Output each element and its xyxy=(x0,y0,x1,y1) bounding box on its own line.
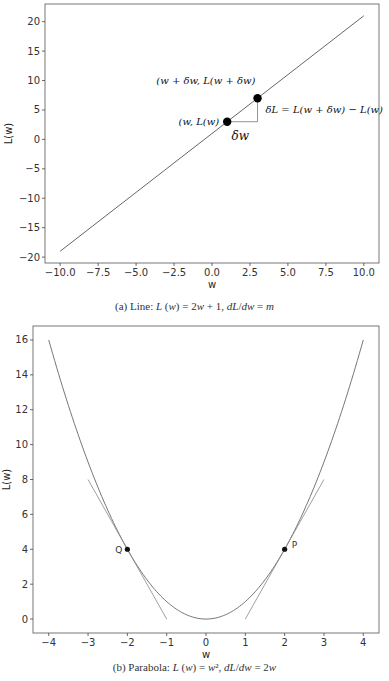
x-tick-label: −2.5 xyxy=(162,267,186,278)
x-tick-label: −7.5 xyxy=(86,267,110,278)
y-tick-label: 20 xyxy=(27,16,40,27)
y-tick-label: 6 xyxy=(22,509,28,520)
x-tick-label: 1 xyxy=(242,637,248,648)
x-tick-label: 5.0 xyxy=(280,267,296,278)
point-label-q: Q xyxy=(115,545,122,555)
x-tick-label: 0 xyxy=(203,637,209,648)
y-tick-label: 2 xyxy=(22,579,28,590)
x-tick-label: 2.5 xyxy=(242,267,258,278)
caption-a-prefix: (a) Line: xyxy=(115,300,156,312)
y-tick-label: 8 xyxy=(22,474,28,485)
delta-w-label: δw xyxy=(232,129,250,143)
x-axis-label: w xyxy=(208,279,216,290)
x-tick-label: 0.0 xyxy=(204,267,220,278)
point-w-plus-dw xyxy=(253,94,261,102)
delta-l-label: δL = L(w + δw) − L(w) xyxy=(266,104,384,115)
y-tick-label: −10 xyxy=(19,193,40,204)
y-tick-label: −15 xyxy=(19,222,40,233)
point-q xyxy=(125,547,130,552)
x-tick-label: −1 xyxy=(159,637,174,648)
x-tick-label: 3 xyxy=(321,637,327,648)
caption-parabola-chart: (b) Parabola: L (w) = w², dL/dw = 2w xyxy=(0,661,389,673)
y-axis-label: L(w) xyxy=(1,469,12,491)
x-axis-label: w xyxy=(202,649,210,660)
y-tick-label: 14 xyxy=(15,369,28,380)
x-tick-label: −5.0 xyxy=(124,267,148,278)
y-tick-label: 4 xyxy=(22,544,28,555)
x-tick-label: −3 xyxy=(81,637,96,648)
tangent-p xyxy=(245,480,324,620)
tangent-q xyxy=(88,480,167,620)
caption-line-chart: (a) Line: L (w) = 2w + 1, dL/dw = m xyxy=(0,300,389,312)
point-w-plus-dw-label: (w + δw, L(w + δw) xyxy=(156,75,255,86)
y-tick-label: 0 xyxy=(34,134,40,145)
line-chart: −10.0−7.5−5.0−2.50.02.55.07.510.0−20−15−… xyxy=(0,0,389,320)
point-w-label: (w, L(w) xyxy=(179,116,220,127)
y-tick-label: 12 xyxy=(15,404,28,415)
y-tick-label: 5 xyxy=(34,104,40,115)
point-label-p: P xyxy=(292,540,298,550)
parabola-curve xyxy=(49,340,364,619)
line-series xyxy=(60,16,364,251)
x-tick-label: −2 xyxy=(120,637,135,648)
caption-b-prefix: (b) Parabola: xyxy=(113,661,173,673)
point-p xyxy=(282,547,287,552)
y-tick-label: −20 xyxy=(19,252,40,263)
y-tick-label: 0 xyxy=(22,614,28,625)
x-tick-label: −10.0 xyxy=(45,267,76,278)
x-tick-label: 4 xyxy=(360,637,366,648)
y-axis-label: L(w) xyxy=(3,123,14,145)
x-tick-label: −4 xyxy=(41,637,56,648)
x-tick-label: 7.5 xyxy=(318,267,334,278)
x-tick-label: 10.0 xyxy=(353,267,375,278)
y-tick-label: 16 xyxy=(15,334,28,345)
y-tick-label: −5 xyxy=(25,163,40,174)
y-tick-label: 10 xyxy=(15,439,28,450)
y-tick-label: 10 xyxy=(27,75,40,86)
plot-frame xyxy=(33,326,379,633)
point-w xyxy=(223,118,231,126)
y-tick-label: 15 xyxy=(27,46,40,57)
x-tick-label: 2 xyxy=(281,637,287,648)
